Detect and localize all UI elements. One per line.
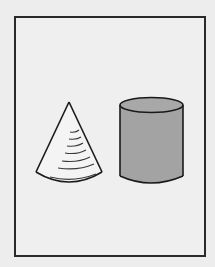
cone-shape (36, 102, 102, 182)
cylinder-shape (120, 98, 183, 184)
shapes-scene (0, 0, 215, 267)
